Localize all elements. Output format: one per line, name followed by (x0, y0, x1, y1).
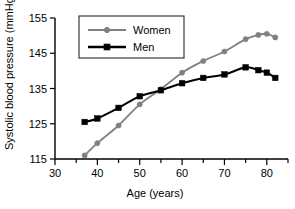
data-point-men (256, 67, 262, 73)
data-point-women (137, 102, 142, 107)
x-tick-label: 40 (91, 167, 103, 179)
x-tick-label: 30 (49, 167, 61, 179)
data-point-women (116, 123, 121, 128)
y-axis-tick-labels: 115125135145155 (29, 12, 47, 165)
data-point-women (201, 58, 206, 63)
data-point-women (82, 153, 87, 158)
data-point-men (158, 87, 164, 93)
legend-label-men: Men (133, 41, 154, 53)
x-tick-label: 70 (218, 167, 230, 179)
x-tick-label: 80 (261, 167, 273, 179)
y-tick-label: 115 (29, 153, 47, 165)
legend-border (79, 16, 184, 58)
data-point-men (82, 119, 88, 125)
y-axis-ticks (50, 18, 55, 159)
x-tick-label: 50 (134, 167, 146, 179)
x-axis-tick-labels: 304050607080 (49, 167, 273, 179)
series-line-men (85, 67, 276, 122)
data-point-women (243, 37, 248, 42)
data-point-men (137, 93, 143, 99)
legend-label-women: Women (133, 24, 171, 36)
y-tick-label: 145 (29, 47, 47, 59)
data-point-women (95, 141, 100, 146)
data-point-men (200, 75, 206, 81)
chart-legend: WomenMen (79, 16, 184, 58)
data-point-women (222, 49, 227, 54)
legend-marker-women (104, 27, 109, 32)
systolic-blood-pressure-chart: 115125135145155 Systolic blood pressure … (0, 0, 295, 209)
chart-canvas: 115125135145155 Systolic blood pressure … (0, 0, 295, 209)
y-tick-label: 135 (29, 83, 47, 95)
data-point-men (116, 105, 122, 111)
legend-marker-men (104, 44, 110, 50)
data-point-women (273, 35, 278, 40)
data-point-men (264, 70, 270, 76)
y-axis-title: Systolic blood pressure (mmHg) (3, 0, 15, 150)
data-point-men (222, 72, 228, 78)
data-point-women (256, 32, 261, 37)
data-point-men (272, 75, 278, 81)
data-point-men (243, 65, 249, 71)
y-tick-label: 125 (29, 118, 47, 130)
data-point-women (179, 70, 184, 75)
data-point-women (264, 31, 269, 36)
data-point-men (95, 116, 101, 122)
y-tick-label: 155 (29, 12, 47, 24)
x-axis-ticks (55, 159, 288, 165)
y-axis-group: 115125135145155 Systolic blood pressure … (3, 0, 55, 165)
x-axis-title: Age (years) (127, 187, 184, 199)
x-axis-group: 304050607080 Age (years) (49, 159, 288, 199)
x-tick-label: 60 (176, 167, 188, 179)
data-point-men (179, 80, 185, 86)
